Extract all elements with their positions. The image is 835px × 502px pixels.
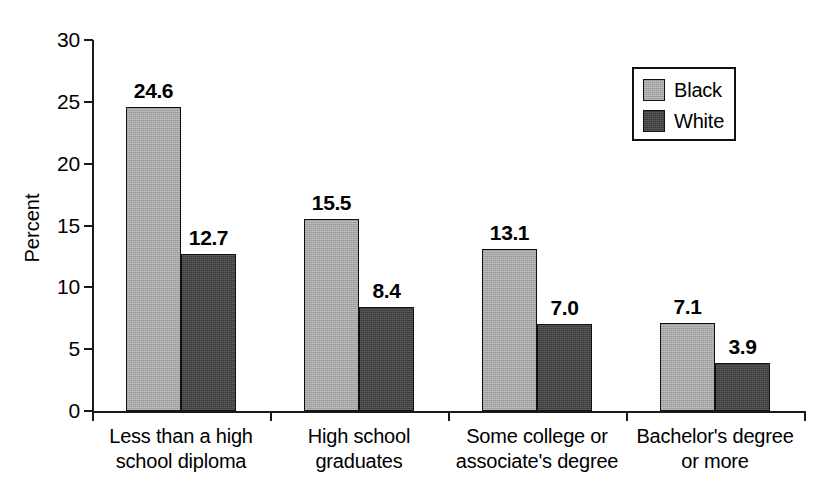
y-axis-tick: [84, 225, 93, 227]
y-axis-tick-label: 5: [34, 338, 80, 359]
category-label-0: Less than a highschool diploma: [84, 424, 278, 474]
bar-value-label: 7.0: [525, 297, 604, 318]
y-axis-tick: [84, 39, 93, 41]
y-axis-tick-label: 0: [34, 400, 80, 421]
dark-gray-swatch-icon: [643, 110, 665, 132]
category-label-line: Less than a high: [84, 424, 278, 449]
bar-value-label: 7.1: [648, 296, 727, 317]
legend-label: White: [674, 111, 724, 131]
category-label-line: High school: [262, 424, 456, 449]
x-axis-tick: [270, 411, 272, 421]
bar-white-0: [181, 254, 236, 411]
bar-value-label: 24.6: [114, 80, 193, 101]
light-gray-swatch-icon: [643, 79, 665, 101]
y-axis-tick: [84, 163, 93, 165]
y-axis-tick-label: 20: [34, 153, 80, 174]
bar-black-0: [126, 107, 181, 411]
x-axis-tick: [626, 411, 628, 421]
y-axis-tick: [84, 101, 93, 103]
y-axis-tick-label: 10: [34, 276, 80, 297]
bar-value-label: 13.1: [470, 222, 549, 243]
bar-white-3: [715, 363, 770, 411]
bar-white-2: [537, 324, 592, 411]
bar-white-1: [359, 307, 414, 411]
bar-black-1: [304, 219, 359, 411]
bar-value-label: 12.7: [169, 227, 248, 248]
x-axis-tick: [92, 411, 94, 421]
bar-chart: Percent 051015202530 24.612.715.58.413.1…: [0, 0, 835, 502]
x-axis-tick: [804, 411, 806, 421]
category-label-3: Bachelor's degreeor more: [618, 424, 812, 474]
category-label-line: Bachelor's degree: [618, 424, 812, 449]
x-axis-tick: [448, 411, 450, 421]
category-label-line: Some college or: [440, 424, 634, 449]
category-label-line: school diploma: [84, 449, 278, 474]
bar-black-2: [482, 249, 537, 411]
bar-value-label: 8.4: [347, 280, 426, 301]
legend: Black White: [632, 67, 736, 141]
y-axis-tick-label: 30: [34, 29, 80, 50]
category-label-line: or more: [618, 449, 812, 474]
y-axis-line: [92, 40, 94, 413]
category-label-2: Some college orassociate's degree: [440, 424, 634, 474]
y-axis-tick-label: 15: [34, 215, 80, 236]
legend-label: Black: [674, 80, 722, 100]
bar-value-label: 3.9: [703, 336, 782, 357]
y-axis-tick: [84, 286, 93, 288]
bar-value-label: 15.5: [292, 192, 371, 213]
category-label-1: High schoolgraduates: [262, 424, 456, 474]
category-label-line: graduates: [262, 449, 456, 474]
legend-item-black: Black: [643, 76, 734, 104]
y-axis-tick-label: 25: [34, 91, 80, 112]
y-axis-tick: [84, 348, 93, 350]
legend-item-white: White: [643, 107, 734, 135]
category-label-line: associate's degree: [440, 449, 634, 474]
